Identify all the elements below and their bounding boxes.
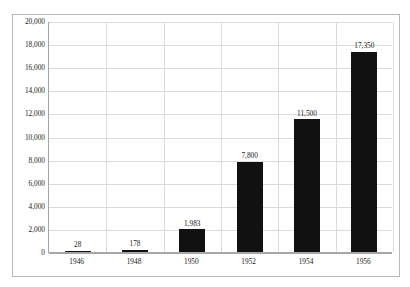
y-axis-tick-label: 14,000 <box>25 87 45 95</box>
y-axis-tick-label: 16,000 <box>25 64 45 72</box>
y-axis-tick-label: 12,000 <box>25 110 45 118</box>
x-axis-tick-label: 1946 <box>48 257 105 266</box>
bar-value-label: 178 <box>130 240 141 248</box>
x-axis-tick-label: 1954 <box>277 257 334 266</box>
y-axis-tick-label: 18,000 <box>25 41 45 49</box>
bar-slot: 28 <box>49 22 106 252</box>
x-axis-tick-label: 1948 <box>105 257 162 266</box>
bar-slot: 7,800 <box>221 22 278 252</box>
y-axis-tick-label: 4,000 <box>29 203 45 211</box>
bar-slot: 17,350 <box>336 22 393 252</box>
x-axis-tick-labels: 194619481950195219541956 <box>48 255 392 269</box>
y-axis-tick-label: 20,000 <box>25 18 45 26</box>
bar-value-label: 7,800 <box>241 152 257 160</box>
y-axis-tick-label: 10,000 <box>25 134 45 142</box>
y-axis-tick-label: 0 <box>41 249 45 257</box>
plot-area: 281781,9837,80011,50017,350 <box>48 22 392 253</box>
bar <box>237 162 263 252</box>
x-axis-tick-label: 1956 <box>335 257 392 266</box>
bar <box>65 251 91 253</box>
y-axis-tick-labels: 02,0004,0006,0008,00010,00012,00014,0001… <box>13 22 45 253</box>
x-axis-tick-label: 1950 <box>163 257 220 266</box>
y-axis-tick-label: 8,000 <box>29 157 45 165</box>
bar <box>294 119 320 252</box>
chart-frame: 02,0004,0006,0008,00010,00012,00014,0001… <box>12 14 400 277</box>
gridline-vertical <box>393 22 394 252</box>
bar-value-label: 11,500 <box>297 110 317 118</box>
y-axis-tick-label: 6,000 <box>29 180 45 188</box>
bar-value-label: 17,350 <box>354 42 374 50</box>
bar-value-label: 1,983 <box>184 220 200 228</box>
bar-slot: 1,983 <box>164 22 221 252</box>
gridline-horizontal <box>49 253 392 254</box>
bar-value-label: 28 <box>74 241 81 249</box>
bar <box>351 52 377 252</box>
bar-slot: 178 <box>106 22 163 252</box>
x-axis-tick-label: 1952 <box>220 257 277 266</box>
bar <box>179 229 205 252</box>
bar <box>122 250 148 252</box>
y-axis-tick-label: 2,000 <box>29 226 45 234</box>
bar-slot: 11,500 <box>278 22 335 252</box>
